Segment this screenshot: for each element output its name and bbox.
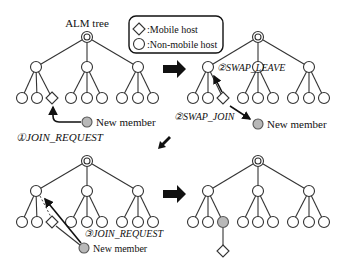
tree-node bbox=[97, 217, 108, 228]
new-member-node bbox=[253, 119, 263, 129]
tree-node bbox=[32, 93, 43, 104]
tree-node bbox=[188, 217, 199, 228]
mobile-host-node bbox=[217, 245, 229, 257]
join-request-arrow bbox=[53, 107, 81, 122]
legend-nonmobile-label: :Non-mobile host bbox=[147, 39, 217, 50]
new-member-node bbox=[79, 243, 89, 253]
tree-node bbox=[268, 93, 279, 104]
tree-node bbox=[117, 217, 128, 228]
tree-node bbox=[148, 217, 159, 228]
mobile-host-node bbox=[217, 92, 229, 104]
tree-node bbox=[133, 186, 144, 197]
mobile-host-node bbox=[46, 92, 58, 104]
tree-node bbox=[253, 217, 264, 228]
tree-node bbox=[82, 186, 93, 197]
tree-node bbox=[31, 186, 42, 197]
step-arrow-down-left-icon bbox=[158, 136, 171, 149]
tree-title: ALM tree bbox=[65, 17, 109, 29]
tree-node bbox=[32, 217, 43, 228]
swap-leave-label: ②SWAP_LEAVE bbox=[217, 62, 285, 73]
tree-node bbox=[253, 186, 264, 197]
tree-node bbox=[17, 93, 28, 104]
tree-edges bbox=[193, 161, 324, 245]
tree-node bbox=[188, 93, 199, 104]
tree-node bbox=[31, 62, 42, 73]
tree-node bbox=[304, 62, 315, 73]
tree-node bbox=[238, 93, 249, 104]
tree-node bbox=[238, 217, 249, 228]
tree-node bbox=[97, 93, 108, 104]
tree-node bbox=[268, 217, 279, 228]
tree-node bbox=[133, 62, 144, 73]
tree-node bbox=[253, 93, 264, 104]
step-arrow-right-icon bbox=[163, 185, 186, 203]
tree-node bbox=[304, 217, 315, 228]
tree-node bbox=[288, 217, 299, 228]
step-arrow-right-icon bbox=[163, 60, 186, 78]
tree-node bbox=[66, 93, 77, 104]
root-node-inner bbox=[255, 34, 261, 40]
new-member-label: New member bbox=[93, 243, 148, 254]
alm-tree-diagram: ALM tree bbox=[0, 0, 343, 267]
new-member-label: New member bbox=[267, 118, 327, 130]
tree-node bbox=[304, 93, 315, 104]
new-member-node bbox=[218, 217, 229, 228]
root-node-inner bbox=[84, 158, 90, 164]
tree-node bbox=[133, 217, 144, 228]
tree-node bbox=[148, 93, 159, 104]
tree-node bbox=[304, 186, 315, 197]
nonmobile-host-legend-icon bbox=[134, 39, 145, 50]
legend-mobile-label: :Mobile host bbox=[147, 24, 198, 35]
tree-node bbox=[117, 93, 128, 104]
tree-node bbox=[133, 93, 144, 104]
swap-join-label: ②SWAP_JOIN bbox=[174, 111, 236, 122]
tree-node bbox=[203, 186, 214, 197]
tree-node bbox=[288, 93, 299, 104]
panel-step4 bbox=[188, 156, 330, 258]
tree-node bbox=[203, 62, 214, 73]
tree-node bbox=[319, 217, 330, 228]
swap-leave-arrow bbox=[214, 76, 222, 92]
join-request-label: ③JOIN_REQUEST bbox=[84, 228, 164, 239]
tree-node bbox=[82, 62, 93, 73]
panel-step3: ③JOIN_REQUEST New member bbox=[17, 156, 165, 255]
legend: :Mobile host :Non-mobile host bbox=[129, 16, 223, 53]
root-node-inner bbox=[255, 158, 261, 164]
root-node-inner bbox=[84, 34, 90, 40]
join-request-label: ①JOIN_REQUEST bbox=[16, 131, 104, 143]
tree-node bbox=[203, 217, 214, 228]
tree-node bbox=[319, 93, 330, 104]
tree-node bbox=[203, 93, 214, 104]
tree-node bbox=[82, 217, 93, 228]
new-member-node bbox=[82, 117, 92, 127]
new-member-label: New member bbox=[96, 116, 156, 128]
tree-node bbox=[17, 217, 28, 228]
tree-node bbox=[82, 93, 93, 104]
